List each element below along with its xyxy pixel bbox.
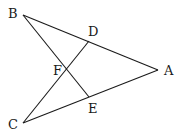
label-f: F <box>53 63 62 78</box>
label-d: D <box>88 24 98 39</box>
segment-be <box>23 15 89 97</box>
geometry-diagram: A B C D E F <box>0 0 183 138</box>
label-a: A <box>163 63 174 78</box>
segment-cd <box>23 41 89 123</box>
label-c: C <box>8 117 18 132</box>
label-e: E <box>88 101 98 116</box>
label-b: B <box>8 6 18 21</box>
